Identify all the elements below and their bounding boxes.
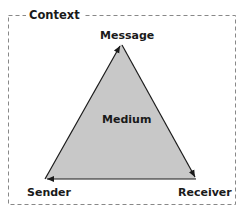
context-label: Context: [26, 10, 83, 22]
receiver-label: Receiver: [178, 187, 232, 198]
sender-label: Sender: [27, 187, 71, 198]
message-label: Message: [100, 30, 154, 41]
medium-label: Medium: [102, 114, 151, 125]
triangle-area: [45, 44, 196, 179]
